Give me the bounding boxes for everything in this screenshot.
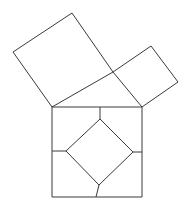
pythagorean-dissection-figure	[0, 0, 188, 212]
diagram-canvas	[0, 0, 188, 212]
